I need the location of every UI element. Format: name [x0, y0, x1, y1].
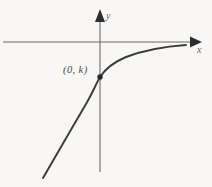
- x-axis-label: x: [197, 45, 201, 55]
- y-axis-arrowhead: [95, 9, 105, 22]
- y-intercept-point: [97, 74, 102, 79]
- y-axis-label: y: [106, 11, 110, 21]
- graph-canvas: [0, 0, 212, 187]
- math-figure: y x (0, k): [0, 0, 212, 187]
- y-intercept-label: (0, k): [63, 65, 88, 76]
